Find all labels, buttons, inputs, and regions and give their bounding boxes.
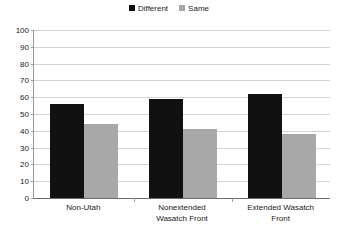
y-axis-tick-mark [31,164,34,165]
chart-legend: Different Same [0,2,338,14]
y-axis-tick-mark [31,97,34,98]
bar-chart: Different Same 1009080706050403020100 No… [0,0,338,237]
y-axis-tick-mark [31,47,34,48]
x-axis-category-label: Non-Utah [34,203,133,214]
y-axis-tick-label: 0 [25,194,29,203]
y-axis-tick-label: 30 [20,143,29,152]
y-axis-tick-label: 20 [20,160,29,169]
x-axis-category-label-line: Wasatch Front [133,214,232,225]
x-axis-category-label: Extended WasatchFront [231,203,330,224]
bar-same-1 [84,124,118,198]
y-axis-tick-labels: 1009080706050403020100 [0,30,29,198]
legend-swatch-different-icon [129,5,135,11]
y-axis-tick-mark [31,64,34,65]
bar-same-2 [183,129,217,198]
legend-label-different: Different [138,4,168,13]
y-axis-tick-mark [31,80,34,81]
x-axis-category-label-line: Non-Utah [34,203,133,214]
y-axis-tick-mark [31,198,34,199]
y-axis-tick-label: 40 [20,126,29,135]
y-axis-tick-label: 100 [16,26,29,35]
legend-entry-same: Same [179,4,209,13]
y-axis-tick-mark [31,148,34,149]
y-axis-tick-mark [31,181,34,182]
legend-swatch-same-icon [179,5,185,11]
y-axis-tick-label: 90 [20,42,29,51]
bar-different-2 [149,99,183,198]
y-axis-tick-mark [31,30,34,31]
x-axis-category-label: NonextendedWasatch Front [133,203,232,224]
y-axis-tick-label: 10 [20,177,29,186]
bars-layer [35,30,330,198]
x-axis-category-label-line: Front [231,214,330,225]
y-axis-tick-label: 70 [20,76,29,85]
y-axis-tick-label: 80 [20,59,29,68]
bar-same-3 [282,134,316,198]
x-axis-category-label-line: Extended Wasatch [231,203,330,214]
bar-different-3 [248,94,282,198]
y-axis-tick-label: 60 [20,93,29,102]
x-axis-category-label-line: Nonextended [133,203,232,214]
y-axis-tick-mark [31,131,34,132]
bar-different-1 [50,104,84,198]
legend-entry-different: Different [129,4,168,13]
y-axis-tick-mark [31,114,34,115]
x-axis-category-labels: Non-UtahNonextendedWasatch FrontExtended… [34,203,329,233]
category-axis-separator [232,198,233,202]
plot-area [33,30,330,199]
legend-label-same: Same [188,4,209,13]
category-axis-separator [134,198,135,202]
gridline [34,198,330,199]
y-axis-tick-label: 50 [20,110,29,119]
